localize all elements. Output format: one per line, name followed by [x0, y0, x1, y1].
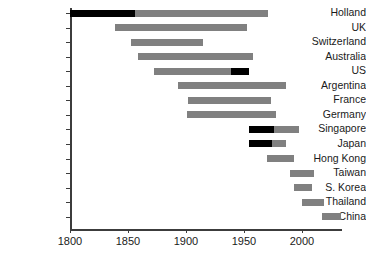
bar-segment — [154, 68, 232, 75]
y-axis-label-hong-kong: Hong Kong — [298, 153, 366, 164]
y-axis-label-switzerland: Switzerland — [298, 36, 366, 47]
y-axis-tick — [66, 42, 70, 43]
x-axis-tick-label: 1900 — [166, 235, 206, 247]
bar-segment — [267, 155, 294, 162]
bar-segment — [131, 39, 203, 46]
bar-segment — [231, 68, 248, 75]
bar-segment — [302, 199, 324, 206]
bar-segment — [187, 111, 276, 118]
bar-segment — [294, 184, 313, 191]
x-axis-tick — [70, 229, 71, 233]
x-axis-tick — [128, 229, 129, 233]
y-axis-tick — [66, 86, 70, 87]
x-axis-tick-label: 2000 — [282, 235, 322, 247]
y-axis-tick — [66, 100, 70, 101]
y-axis-label-uk: UK — [298, 22, 366, 33]
bar-segment — [178, 82, 286, 89]
y-axis-tick — [66, 144, 70, 145]
x-axis-tick-label: 1800 — [50, 235, 90, 247]
y-axis-tick — [66, 202, 70, 203]
y-axis-tick — [66, 115, 70, 116]
bar-segment — [135, 10, 268, 17]
x-axis-tick — [244, 229, 245, 233]
bar-segment — [138, 53, 253, 60]
x-axis-tick-label: 1850 — [108, 235, 148, 247]
bar-segment — [274, 126, 298, 133]
gantt-chart: HollandUKSwitzerlandAustraliaUSArgentina… — [0, 0, 366, 254]
y-axis-label-germany: Germany — [298, 109, 366, 120]
y-axis-label-australia: Australia — [298, 51, 366, 62]
y-axis-label-japan: Japan — [298, 138, 366, 149]
y-axis-label-us: US — [298, 65, 366, 76]
y-axis-line — [70, 8, 72, 230]
y-axis-tick — [66, 28, 70, 29]
y-axis-label-france: France — [298, 94, 366, 105]
x-axis-tick — [186, 229, 187, 233]
bar-segment — [249, 126, 275, 133]
x-axis-tick-label: 1950 — [224, 235, 264, 247]
y-axis-tick — [66, 188, 70, 189]
bar-segment — [290, 170, 313, 177]
bar-segment — [188, 97, 270, 104]
y-axis-tick — [66, 159, 70, 160]
y-axis-tick — [66, 57, 70, 58]
y-axis-tick — [66, 173, 70, 174]
bar-segment — [115, 24, 247, 31]
bar-segment — [322, 213, 342, 220]
y-axis-label-argentina: Argentina — [298, 80, 366, 91]
x-axis-tick — [302, 229, 303, 233]
bar-segment — [249, 140, 272, 147]
y-axis-tick — [66, 129, 70, 130]
bar-segment — [70, 10, 135, 17]
y-axis-tick — [66, 71, 70, 72]
y-axis-tick — [66, 217, 70, 218]
y-axis-label-holland: Holland — [298, 7, 366, 18]
bar-segment — [272, 140, 286, 147]
y-axis-label-singapore: Singapore — [298, 123, 366, 134]
